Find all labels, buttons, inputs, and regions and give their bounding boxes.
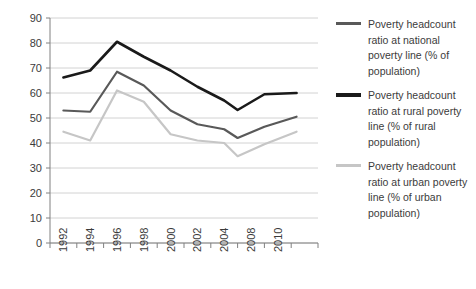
y-axis-ticks <box>46 18 50 243</box>
legend-label-rural: Poverty headcount ratio at rural poverty… <box>368 88 474 150</box>
legend-item: Poverty headcount ratio at national pove… <box>336 17 476 79</box>
y-tick-label: 70 <box>30 62 42 74</box>
x-tick-label: 2010 <box>272 228 284 252</box>
legend-line-swatch-urban <box>336 164 361 167</box>
x-axis-tick-labels: 199219941996199820002002200420082010 <box>57 228 283 252</box>
chart-figure: 0102030405060708090 19921994199619982000… <box>0 0 476 289</box>
series-lines <box>63 42 296 157</box>
x-tick-label: 2008 <box>245 228 257 252</box>
legend-line-swatch-rural <box>336 93 361 97</box>
y-tick-label: 90 <box>30 12 42 24</box>
chart-legend: Poverty headcount ratio at national pove… <box>336 17 476 230</box>
x-tick-label: 1992 <box>57 228 69 252</box>
gridlines <box>50 18 318 243</box>
x-tick-label: 1996 <box>111 228 123 252</box>
y-tick-label: 30 <box>30 162 42 174</box>
y-tick-label: 50 <box>30 112 42 124</box>
legend-label-national: Poverty headcount ratio at national pove… <box>368 17 474 79</box>
y-tick-label: 0 <box>36 237 42 249</box>
x-tick-label: 2000 <box>165 228 177 252</box>
y-tick-label: 60 <box>30 87 42 99</box>
y-tick-label: 40 <box>30 137 42 149</box>
x-tick-label: 2002 <box>191 228 203 252</box>
line-chart-svg: 0102030405060708090 19921994199619982000… <box>0 0 330 289</box>
x-tick-label: 2004 <box>218 228 230 252</box>
y-tick-label: 80 <box>30 37 42 49</box>
legend-label-urban: Poverty headcount ratio at urban poverty… <box>368 159 474 221</box>
y-tick-label: 10 <box>30 212 42 224</box>
x-tick-label: 1994 <box>84 228 96 252</box>
legend-item: Poverty headcount ratio at rural poverty… <box>336 88 476 150</box>
legend-item: Poverty headcount ratio at urban poverty… <box>336 159 476 221</box>
y-tick-label: 20 <box>30 187 42 199</box>
y-axis-tick-labels: 0102030405060708090 <box>30 12 42 249</box>
x-tick-label: 1998 <box>138 228 150 252</box>
plot-area: 0102030405060708090 19921994199619982000… <box>0 0 330 289</box>
legend-line-swatch-national <box>336 22 361 25</box>
